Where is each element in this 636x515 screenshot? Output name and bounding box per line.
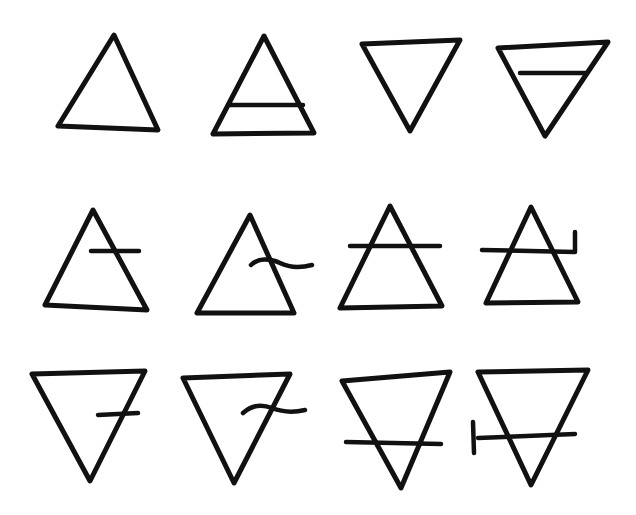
paper-background <box>0 0 636 515</box>
bar-stroke <box>473 422 474 453</box>
symbol-sheet <box>0 0 636 515</box>
bar-stroke <box>98 413 138 415</box>
bar-stroke <box>346 442 441 444</box>
